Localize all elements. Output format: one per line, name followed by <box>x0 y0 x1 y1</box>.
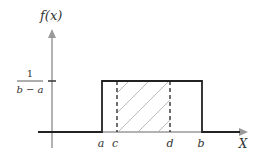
y-axis-label: f(x) <box>39 8 62 23</box>
pdf-curve <box>38 81 240 132</box>
x-axis-arrow-icon <box>239 128 248 136</box>
tick-c: c <box>112 137 118 150</box>
tick-d: d <box>166 137 173 150</box>
y-axis-arrow-icon <box>48 29 56 38</box>
height-numerator: 1 <box>27 68 33 79</box>
height-denominator: b − a <box>16 84 43 95</box>
uniform-pdf-diagram: f(x) 1 b − a a c d b X <box>0 0 262 152</box>
tick-b: b <box>197 137 204 150</box>
tick-a: a <box>98 137 105 150</box>
x-axis-label: X <box>238 137 248 151</box>
